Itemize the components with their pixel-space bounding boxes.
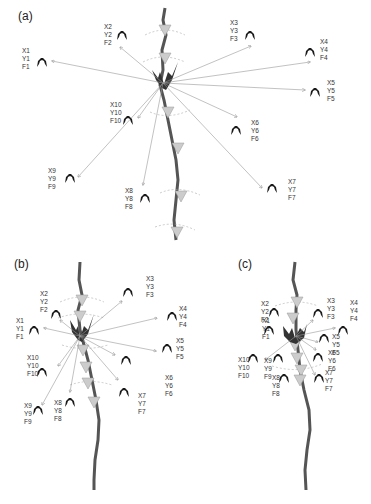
svg-text:F1: F1 — [16, 333, 24, 340]
svg-text:F3: F3 — [230, 35, 238, 42]
svg-text:X2: X2 — [104, 23, 112, 30]
svg-text:X10: X10 — [110, 101, 122, 108]
svg-text:Y1: Y1 — [16, 325, 24, 332]
svg-text:Y10: Y10 — [110, 109, 122, 116]
svg-text:X3: X3 — [327, 297, 335, 304]
svg-text:Y6: Y6 — [328, 357, 336, 364]
svg-text:Y10: Y10 — [238, 364, 250, 371]
svg-text:Y2: Y2 — [40, 298, 48, 305]
svg-text:X7: X7 — [325, 369, 333, 376]
svg-text:X10: X10 — [27, 354, 39, 361]
svg-text:Y6: Y6 — [165, 382, 173, 389]
svg-text:F3: F3 — [327, 313, 335, 320]
svg-text:F6: F6 — [165, 390, 173, 397]
svg-text:X3: X3 — [146, 275, 154, 282]
panel-label-a: (a) — [18, 9, 33, 23]
svg-text:X3: X3 — [230, 19, 238, 26]
svg-text:F10: F10 — [238, 372, 250, 379]
svg-text:Y10: Y10 — [27, 362, 39, 369]
svg-text:F10: F10 — [27, 370, 39, 377]
svg-text:X10: X10 — [238, 356, 250, 363]
svg-text:Y3: Y3 — [230, 27, 238, 34]
svg-text:X6: X6 — [328, 349, 336, 356]
svg-text:F9: F9 — [264, 373, 272, 380]
svg-text:X5: X5 — [327, 79, 335, 86]
svg-text:F8: F8 — [272, 390, 280, 397]
svg-text:F2: F2 — [40, 306, 48, 313]
svg-text:X7: X7 — [288, 178, 296, 185]
panel-b: (b) — [14, 257, 187, 490]
svg-text:Y1: Y1 — [22, 55, 30, 62]
svg-text:X6: X6 — [251, 119, 259, 126]
svg-text:X5: X5 — [176, 337, 184, 344]
svg-text:F7: F7 — [288, 194, 296, 201]
svg-text:X9: X9 — [264, 357, 272, 364]
svg-text:F9: F9 — [48, 183, 56, 190]
svg-text:Y7: Y7 — [138, 400, 146, 407]
svg-text:X8: X8 — [54, 399, 62, 406]
svg-text:F9: F9 — [24, 418, 32, 425]
svg-text:Y5: Y5 — [332, 341, 340, 348]
svg-text:Y2: Y2 — [261, 308, 269, 315]
svg-text:F7: F7 — [138, 408, 146, 415]
svg-text:F4: F4 — [179, 321, 187, 328]
svg-text:F4: F4 — [320, 54, 328, 61]
svg-text:Y9: Y9 — [48, 175, 56, 182]
svg-text:Y6: Y6 — [251, 127, 259, 134]
svg-text:F1: F1 — [22, 63, 30, 70]
svg-text:X4: X4 — [320, 38, 328, 45]
panel-c: (c) X1Y1F1 X2Y2F2 — [238, 257, 358, 490]
panel-label-b: (b) — [14, 257, 29, 271]
svg-text:Y4: Y4 — [320, 46, 328, 53]
svg-text:X2: X2 — [261, 300, 269, 307]
svg-text:Y8: Y8 — [272, 382, 280, 389]
svg-text:F10: F10 — [110, 117, 122, 124]
svg-text:X8: X8 — [125, 187, 133, 194]
svg-text:F2: F2 — [104, 39, 112, 46]
svg-text:Y8: Y8 — [125, 195, 133, 202]
svg-text:X4: X4 — [179, 305, 187, 312]
svg-text:F1: F1 — [262, 333, 270, 340]
svg-text:X1: X1 — [22, 47, 30, 54]
svg-text:F4: F4 — [350, 315, 358, 322]
svg-text:X4: X4 — [350, 299, 358, 306]
svg-text:F5: F5 — [327, 95, 335, 102]
svg-text:F8: F8 — [54, 415, 62, 422]
svg-text:X9: X9 — [48, 167, 56, 174]
svg-text:F8: F8 — [125, 203, 133, 210]
panel-a: (a) — [18, 8, 335, 240]
svg-text:F2: F2 — [261, 316, 269, 323]
svg-text:F7: F7 — [325, 385, 333, 392]
svg-text:Y3: Y3 — [146, 283, 154, 290]
svg-text:Y7: Y7 — [325, 377, 333, 384]
svg-text:Y2: Y2 — [104, 31, 112, 38]
svg-text:F3: F3 — [146, 291, 154, 298]
svg-text:Y9: Y9 — [24, 410, 32, 417]
svg-text:X7: X7 — [138, 392, 146, 399]
svg-text:X2: X2 — [40, 290, 48, 297]
svg-text:Y7: Y7 — [288, 186, 296, 193]
svg-text:Y8: Y8 — [54, 407, 62, 414]
svg-text:X1: X1 — [16, 317, 24, 324]
svg-text:X8: X8 — [272, 374, 280, 381]
svg-text:Y9: Y9 — [264, 365, 272, 372]
svg-text:X5: X5 — [332, 333, 340, 340]
svg-text:X6: X6 — [165, 374, 173, 381]
svg-text:Y5: Y5 — [176, 345, 184, 352]
svg-text:Y1: Y1 — [262, 325, 270, 332]
svg-text:F6: F6 — [251, 135, 259, 142]
panel-label-c: (c) — [238, 257, 252, 271]
svg-text:X9: X9 — [24, 402, 32, 409]
svg-text:Y4: Y4 — [350, 307, 358, 314]
svg-text:Y4: Y4 — [179, 313, 187, 320]
svg-text:F5: F5 — [176, 353, 184, 360]
svg-text:Y3: Y3 — [327, 305, 335, 312]
diagram-canvas: (a) — [0, 0, 371, 504]
svg-text:Y5: Y5 — [327, 87, 335, 94]
